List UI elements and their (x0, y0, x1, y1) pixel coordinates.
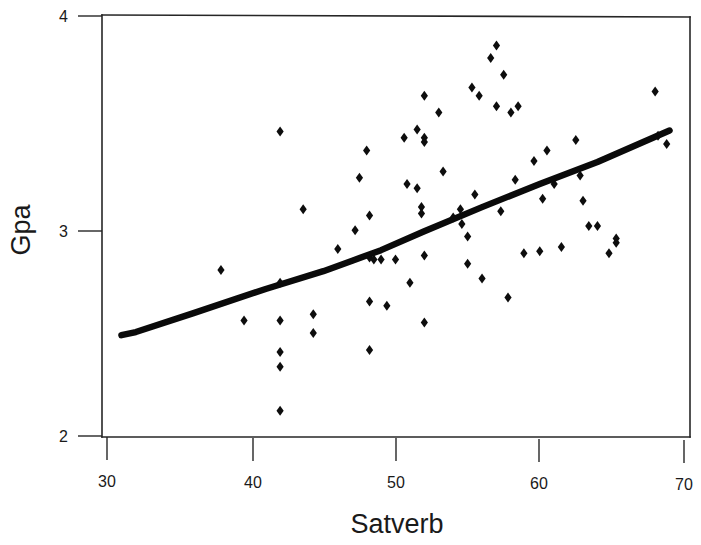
data-point (515, 101, 522, 111)
data-point (356, 173, 363, 183)
data-point (383, 301, 390, 311)
data-point (403, 179, 410, 189)
y-axis-title: Gpa (6, 204, 36, 256)
plot-top-border (102, 15, 690, 17)
data-point (310, 309, 317, 319)
data-point (497, 206, 504, 216)
y-tick-label-3: 3 (59, 223, 68, 240)
scatter-points-layer (217, 40, 670, 415)
data-point (471, 190, 478, 200)
trend-line (121, 130, 669, 335)
data-point (300, 204, 307, 214)
data-point (401, 133, 408, 143)
data-point (414, 183, 421, 193)
data-point (421, 91, 428, 101)
data-point (464, 232, 471, 242)
y-tick-label-2: 2 (59, 428, 68, 445)
data-point (594, 221, 601, 231)
data-point (539, 194, 546, 204)
data-point (435, 108, 442, 118)
x-axis-ticks: 30 40 50 60 70 (98, 437, 693, 493)
x-tick-label-50: 50 (387, 474, 405, 491)
data-point (605, 248, 612, 258)
x-tick-label-70: 70 (675, 476, 693, 493)
data-point (512, 175, 519, 185)
data-point (493, 101, 500, 111)
data-point (440, 166, 447, 176)
y-tick-label-4: 4 (59, 8, 68, 25)
scatter-plot-figure: 4 3 2 30 40 50 60 70 Gpa Satverb (0, 0, 701, 545)
data-point (530, 156, 537, 166)
data-point (366, 211, 373, 221)
data-point (377, 255, 384, 265)
data-point (277, 347, 284, 357)
data-point (493, 40, 500, 50)
data-point (476, 91, 483, 101)
x-axis-title: Satverb (350, 509, 443, 539)
data-point (277, 127, 284, 137)
data-point (334, 244, 341, 254)
data-point (406, 278, 413, 288)
data-point (421, 318, 428, 328)
data-point (652, 87, 659, 97)
data-point (487, 53, 494, 63)
data-point (504, 292, 511, 302)
data-point (478, 274, 485, 284)
data-point (240, 316, 247, 326)
data-point (277, 362, 284, 372)
data-point (421, 250, 428, 260)
data-point (392, 255, 399, 265)
data-point (558, 242, 565, 252)
x-tick-label-60: 60 (530, 475, 548, 492)
plot-canvas: 4 3 2 30 40 50 60 70 Gpa Satverb (0, 0, 701, 545)
data-point (418, 208, 425, 218)
data-point (663, 139, 670, 149)
data-point (217, 265, 224, 275)
data-point (363, 145, 370, 155)
x-tick-label-40: 40 (244, 474, 262, 491)
data-point (366, 345, 373, 355)
data-point (468, 82, 475, 92)
data-point (572, 135, 579, 145)
data-point (585, 221, 592, 231)
data-point (352, 225, 359, 235)
data-point (366, 297, 373, 307)
data-point (414, 124, 421, 134)
data-point (310, 328, 317, 338)
x-tick-label-30: 30 (98, 473, 116, 490)
data-point (520, 248, 527, 258)
data-point (579, 196, 586, 206)
data-point (277, 316, 284, 326)
y-axis-ticks: 4 3 2 (59, 8, 102, 445)
data-point (458, 219, 465, 229)
data-point (507, 108, 514, 118)
plot-frame (102, 15, 690, 437)
data-point (543, 145, 550, 155)
data-point (536, 246, 543, 256)
data-point (464, 259, 471, 269)
data-point (277, 406, 284, 416)
data-point (500, 70, 507, 80)
